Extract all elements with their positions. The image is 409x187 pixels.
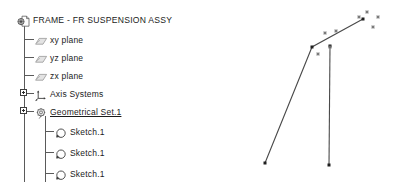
tree-node-label: xy plane: [48, 36, 83, 45]
tree-node-yz-plane[interactable]: yz plane: [34, 50, 83, 66]
sketch-icon: [54, 168, 68, 181]
sketch-icon: [54, 147, 68, 160]
geometrical-set-icon: [34, 106, 48, 119]
sketch-icon: [54, 126, 68, 139]
vertex-bend[interactable]: [311, 46, 314, 49]
tree-trunk-root: [24, 22, 25, 182]
vertex-lower-left[interactable]: [264, 162, 267, 165]
vertical-strut[interactable]: [329, 46, 330, 165]
tree-node-sketch-1[interactable]: Sketch.1: [54, 124, 105, 140]
expander-geometrical-set[interactable]: [20, 107, 27, 114]
construction-point-8[interactable]: [371, 25, 375, 29]
tree-node-zx-plane[interactable]: zx plane: [34, 68, 83, 84]
tree-node-label: zx plane: [48, 72, 83, 81]
plane-icon: [34, 52, 48, 65]
vertex-strut-bottom[interactable]: [328, 164, 331, 167]
tree-branch-sketch-2: [45, 152, 54, 153]
tree-branch-zx: [24, 75, 34, 76]
construction-point-7[interactable]: [376, 15, 380, 19]
tree-node-label: Axis Systems: [48, 90, 103, 99]
tree-branch-xy: [24, 39, 34, 40]
axis-system-icon: [34, 88, 48, 101]
tree-node-label: Sketch.1: [68, 149, 105, 158]
main-bent-line[interactable]: [265, 19, 363, 163]
construction-point-2[interactable]: [334, 29, 338, 33]
vertex-upper-right[interactable]: [362, 18, 365, 21]
part-document-icon: [17, 14, 31, 27]
tree-node-root-label: FRAME - FR SUSPENSION ASSY: [31, 16, 172, 25]
construction-point-4[interactable]: [328, 45, 332, 49]
tree-branch-sketch-1: [45, 131, 54, 132]
geometry-canvas[interactable]: [230, 0, 409, 187]
construction-point-5[interactable]: [357, 15, 361, 19]
tree-node-label: Sketch.1: [68, 170, 105, 179]
tree-node-label: yz plane: [48, 54, 83, 63]
tree-node-sketch-2[interactable]: Sketch.1: [54, 145, 105, 161]
plane-icon: [34, 34, 48, 47]
tree-node-axis-systems[interactable]: Axis Systems: [34, 86, 103, 102]
tree-node-xy-plane[interactable]: xy plane: [34, 32, 83, 48]
tree-node-root[interactable]: FRAME - FR SUSPENSION ASSY: [17, 12, 172, 28]
construction-point-3[interactable]: [316, 52, 320, 56]
plane-icon: [34, 70, 48, 83]
tree-branch-yz: [24, 57, 34, 58]
expander-axis-systems[interactable]: [20, 89, 27, 96]
tree-node-geometrical-set[interactable]: Geometrical Set.1: [34, 104, 121, 120]
specification-tree[interactable]: FRAME - FR SUSPENSION ASSY xy plane yz p…: [0, 0, 230, 187]
tree-node-label: Sketch.1: [68, 128, 105, 137]
construction-point-6[interactable]: [365, 10, 369, 14]
construction-point-1[interactable]: [323, 31, 327, 35]
tree-node-sketch-3[interactable]: Sketch.1: [54, 166, 105, 182]
tree-node-label: Geometrical Set.1: [48, 108, 121, 117]
tree-branch-sketch-3: [45, 173, 54, 174]
3d-geometry-view[interactable]: [230, 0, 409, 187]
